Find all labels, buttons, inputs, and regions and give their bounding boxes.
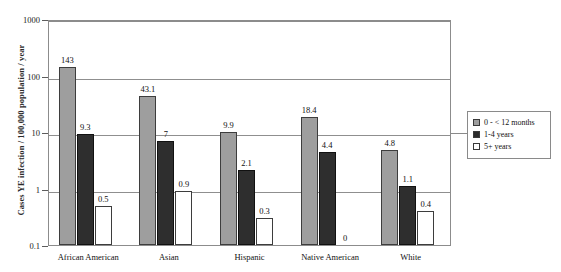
bar-value-label: 7 <box>148 130 183 139</box>
x-axis-label-c2: Hispanic <box>209 252 290 262</box>
bar-value-label: 4.4 <box>310 141 345 150</box>
bar[interactable] <box>59 67 76 245</box>
bar-series-container: 1439.30.543.170.99.92.10.318.44.404.81.1… <box>49 22 450 245</box>
x-axis-label-c3: Native American <box>290 252 371 262</box>
y-tick-label-10: 10 <box>0 129 40 137</box>
bar-value-label: 9.3 <box>68 123 103 132</box>
legend-label-1: 1-4 years <box>484 130 514 139</box>
legend-label-0: 0 - < 12 months <box>484 118 535 127</box>
bar-value-label: 18.4 <box>292 106 327 115</box>
bar-value-label: 4.8 <box>372 139 407 148</box>
legend-connector-line <box>451 133 468 134</box>
bar[interactable] <box>417 211 434 245</box>
bar[interactable] <box>95 206 112 245</box>
plot-area: 1439.30.543.170.99.92.10.318.44.404.81.1… <box>48 20 451 246</box>
bar-value-label: 43.1 <box>130 85 165 94</box>
bar[interactable] <box>157 141 174 245</box>
bar-value-label: 0.3 <box>247 207 282 216</box>
y-tick-mark <box>42 246 48 247</box>
bar-value-label: 0.5 <box>86 195 121 204</box>
bar[interactable] <box>319 152 336 245</box>
bar-value-label: 2.1 <box>229 159 264 168</box>
legend-swatch-0-12-months-icon <box>473 119 480 126</box>
bar-value-label: 0 <box>328 234 363 243</box>
bar[interactable] <box>381 150 398 245</box>
chart-legend: 0 - < 12 months 1-4 years 5+ years <box>467 111 551 159</box>
y-tick-label-0.1: 0.1 <box>0 242 40 250</box>
bar[interactable] <box>399 186 416 245</box>
bar-value-label: 0.9 <box>166 180 201 189</box>
chart-title-cropped <box>150 0 450 4</box>
y-tick-label-1: 1 <box>0 186 40 194</box>
legend-item-1[interactable]: 1-4 years <box>473 130 546 139</box>
bar-value-label: 143 <box>50 56 85 65</box>
legend-item-0[interactable]: 0 - < 12 months <box>473 118 546 127</box>
bar[interactable] <box>220 132 237 245</box>
legend-swatch-1-4-years-icon <box>473 131 480 138</box>
chart-canvas: Cases YE infection / 100,000 population … <box>0 0 561 272</box>
y-tick-label-1000: 1000 <box>0 16 40 24</box>
x-axis-label-c1: Asian <box>129 252 210 262</box>
bar[interactable] <box>256 218 273 245</box>
bar[interactable] <box>175 191 192 245</box>
bar-value-label: 9.9 <box>211 121 246 130</box>
bar[interactable] <box>77 134 94 245</box>
bar-value-label: 1.1 <box>390 175 425 184</box>
bar[interactable] <box>139 96 156 245</box>
y-tick-label-100: 100 <box>0 73 40 81</box>
bar[interactable] <box>301 117 318 245</box>
legend-swatch-5-plus-years-icon <box>473 143 480 150</box>
legend-item-2[interactable]: 5+ years <box>473 142 546 151</box>
legend-label-2: 5+ years <box>484 142 511 151</box>
x-axis-label-c4: White <box>370 252 451 262</box>
bar-value-label: 0.4 <box>408 200 443 209</box>
x-axis-label-c0: African American <box>48 252 129 262</box>
